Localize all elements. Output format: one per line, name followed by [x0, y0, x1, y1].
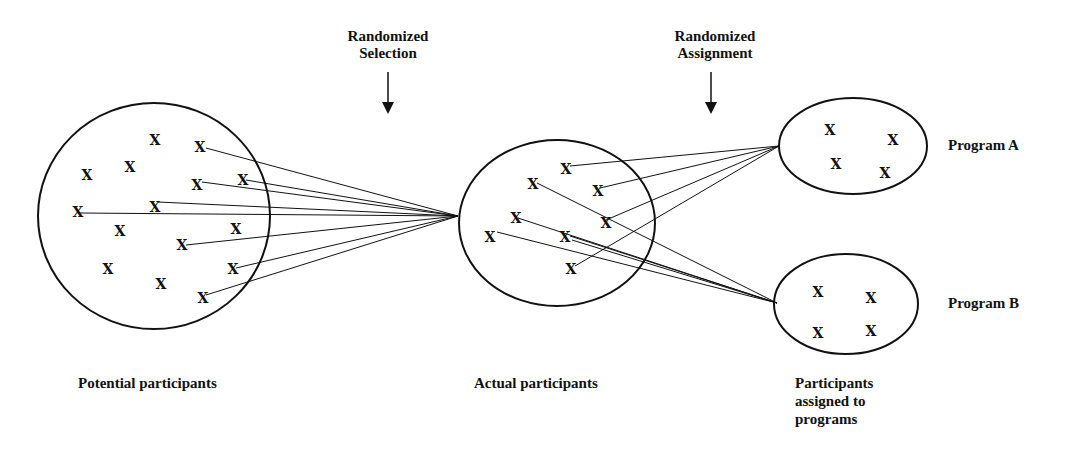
assigned-caption-line3: programs — [795, 410, 873, 428]
svg-text:X: X — [198, 290, 209, 306]
selection-header: Randomized Selection — [318, 28, 458, 62]
svg-text:X: X — [125, 159, 136, 175]
assignment-lines — [497, 146, 779, 303]
svg-text:X: X — [880, 165, 891, 181]
program-b-label: Program B — [948, 294, 1019, 312]
svg-text:X: X — [150, 199, 161, 215]
svg-text:X: X — [825, 122, 836, 138]
svg-text:X: X — [231, 221, 242, 237]
selection-header-line2: Selection — [318, 45, 458, 62]
potential-markers: X X X X X X X X X X X X X X X — [73, 132, 249, 306]
svg-text:X: X — [813, 325, 824, 341]
svg-text:X: X — [150, 132, 161, 148]
actual-participants-caption: Actual participants — [474, 374, 598, 392]
svg-text:X: X — [115, 223, 126, 239]
svg-text:X: X — [560, 229, 571, 245]
randomization-diagram: X X X X X X X X X X X X X X X X X X X X … — [0, 0, 1088, 465]
svg-text:X: X — [177, 237, 188, 253]
svg-text:X: X — [82, 167, 93, 183]
svg-text:X: X — [528, 176, 539, 192]
svg-text:X: X — [831, 156, 842, 172]
actual-markers: X X X X X X X X — [485, 161, 612, 277]
program-a-label: Program A — [948, 136, 1019, 154]
selection-header-line1: Randomized — [318, 28, 458, 45]
svg-text:X: X — [103, 261, 114, 277]
svg-text:X: X — [601, 215, 612, 231]
program-b-ellipse — [774, 254, 918, 354]
svg-text:X: X — [561, 161, 572, 177]
program-b-markers: X X X X — [813, 284, 877, 341]
svg-text:X: X — [566, 261, 577, 277]
svg-text:X: X — [238, 172, 249, 188]
svg-text:X: X — [511, 210, 522, 226]
svg-text:X: X — [866, 323, 877, 339]
program-a-markers: X X X X — [825, 122, 899, 181]
assigned-caption-line2: assigned to — [795, 392, 873, 410]
assignment-header-line2: Assignment — [640, 45, 790, 62]
svg-text:X: X — [156, 276, 167, 292]
assignment-header: Randomized Assignment — [640, 28, 790, 62]
svg-text:X: X — [888, 132, 899, 148]
selection-arrow — [382, 72, 394, 114]
svg-text:X: X — [866, 290, 877, 306]
svg-text:X: X — [485, 229, 496, 245]
svg-text:X: X — [813, 284, 824, 300]
potential-participants-caption: Potential participants — [78, 374, 217, 392]
svg-text:X: X — [192, 177, 203, 193]
program-a-ellipse — [779, 98, 927, 194]
svg-text:X: X — [195, 139, 206, 155]
assignment-arrow — [705, 72, 717, 114]
actual-participants-ellipse — [459, 140, 655, 306]
assigned-participants-caption: Participants assigned to programs — [795, 374, 873, 428]
svg-text:X: X — [228, 261, 239, 277]
svg-text:X: X — [73, 204, 84, 220]
assigned-caption-line1: Participants — [795, 374, 873, 392]
assignment-header-line1: Randomized — [640, 28, 790, 45]
svg-text:X: X — [593, 183, 604, 199]
